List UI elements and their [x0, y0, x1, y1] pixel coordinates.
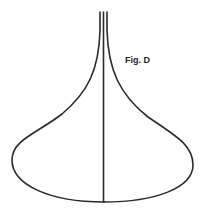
left-outline [12, 12, 104, 202]
figure-label: Fig. D [125, 55, 150, 65]
right-outline [104, 12, 193, 202]
bell-outline-diagram [0, 0, 203, 215]
